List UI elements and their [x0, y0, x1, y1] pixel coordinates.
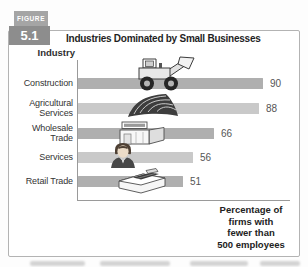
category-label: Construction: [11, 78, 77, 88]
x-axis-caption: Percentage of firms with fewer than 500 …: [205, 204, 297, 250]
front-loader-icon: [127, 55, 197, 92]
value-label: 56: [200, 152, 211, 163]
caption-line: firms with: [205, 216, 297, 228]
value-label: 90: [270, 78, 281, 89]
cropped-caption-text: [100, 261, 170, 266]
cropped-caption-text: [30, 261, 85, 266]
category-label: Retail Trade: [11, 176, 77, 186]
figure-tag-label: FIGURE: [14, 11, 48, 26]
caption-line: Percentage of: [205, 204, 297, 216]
category-label: Services: [11, 152, 77, 162]
figure-number: 5.1: [9, 26, 50, 45]
value-label: 88: [266, 103, 277, 114]
industry-axis-label: Industry: [11, 47, 75, 58]
value-label: 51: [190, 176, 201, 187]
bar-row-services: Services 56: [11, 145, 297, 169]
caption-line: fewer than: [205, 227, 297, 239]
person-icon: [109, 142, 137, 168]
category-label: Agricultural Services: [11, 98, 77, 118]
figure-title: Industries Dominated by Small Businesses: [66, 33, 261, 44]
cropped-caption-text: [190, 261, 248, 266]
category-label: Wholesale Trade: [11, 123, 77, 143]
figure-box: Industry Construction 90 Agricultural Se…: [8, 30, 300, 257]
cropped-caption-text: [260, 261, 300, 266]
cash-register-icon: [113, 167, 171, 194]
plowed-field-icon: [126, 92, 180, 119]
x-axis-baseline: [77, 200, 290, 201]
caption-line: 500 employees: [205, 239, 297, 251]
value-label: 66: [221, 128, 232, 139]
